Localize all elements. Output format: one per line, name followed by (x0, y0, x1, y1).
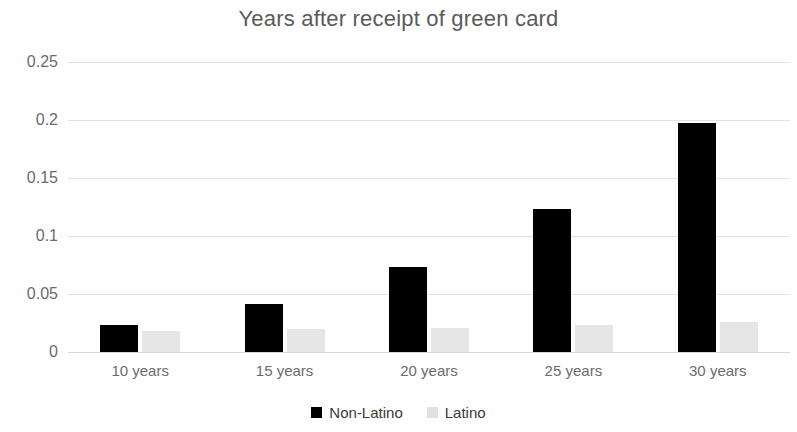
y-axis: 00.050.10.150.20.25 (0, 62, 58, 352)
legend-item-non-latino[interactable]: Non-Latino (311, 404, 402, 421)
legend-label: Non-Latino (329, 404, 402, 421)
x-axis-tick-label: 30 years (689, 362, 747, 379)
legend-label: Latino (445, 404, 486, 421)
y-axis-tick-label: 0.15 (27, 169, 58, 187)
bar-non-latino-15-years (245, 304, 283, 352)
y-axis-tick-label: 0.1 (36, 227, 58, 245)
bar-latino-25-years (575, 325, 613, 352)
bar-non-latino-25-years (533, 209, 571, 352)
bar-latino-20-years (431, 328, 469, 352)
bar-non-latino-20-years (389, 267, 427, 352)
chart-legend: Non-LatinoLatino (0, 404, 797, 421)
chart-title: Years after receipt of green card (0, 6, 797, 32)
y-axis-tick-label: 0.25 (27, 53, 58, 71)
y-axis-tick-label: 0.2 (36, 111, 58, 129)
legend-swatch-icon (311, 407, 322, 418)
gridline (68, 352, 790, 353)
bar-chart: Years after receipt of green card 00.050… (0, 0, 797, 432)
x-axis-tick-label: 25 years (545, 362, 603, 379)
bar-latino-30-years (720, 322, 758, 352)
y-axis-tick-label: 0 (49, 343, 58, 361)
bars-layer (68, 62, 790, 352)
x-axis-tick-label: 10 years (111, 362, 169, 379)
x-axis-tick-label: 20 years (400, 362, 458, 379)
legend-item-latino[interactable]: Latino (427, 404, 486, 421)
bar-non-latino-30-years (678, 123, 716, 352)
x-axis-tick-label: 15 years (256, 362, 314, 379)
bar-latino-10-years (142, 331, 180, 352)
y-axis-tick-label: 0.05 (27, 285, 58, 303)
legend-swatch-icon (427, 407, 438, 418)
bar-non-latino-10-years (100, 325, 138, 352)
x-axis: 10 years15 years20 years25 years30 years (68, 356, 790, 386)
bar-latino-15-years (287, 329, 325, 352)
